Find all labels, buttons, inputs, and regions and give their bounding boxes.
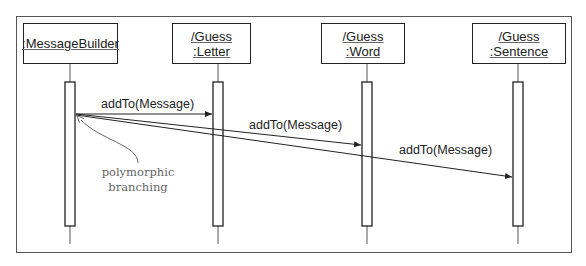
object-name-line2: :Letter	[193, 44, 230, 59]
annotation-line1: polymorphic	[98, 165, 178, 180]
activation-sentence	[513, 82, 523, 226]
annotation-line2: branching	[98, 180, 178, 195]
message-label-letter: addTo(Message)	[101, 97, 194, 111]
object-messagebuilder: :MessageBuilder	[23, 23, 118, 64]
message-label-sentence: addTo(Message)	[399, 143, 492, 157]
annotation-polymorphic-branching: polymorphic branching	[98, 165, 178, 195]
message-label-word: addTo(Message)	[249, 118, 342, 132]
object-name-line2: :Word	[346, 44, 380, 59]
activation-letter	[213, 82, 223, 226]
object-name-line1: /Guess	[342, 29, 383, 44]
object-name-line2: :Sentence	[490, 44, 549, 59]
object-name-line1: /Guess	[191, 29, 232, 44]
object-name-line1: /Guess	[498, 29, 539, 44]
object-guess-letter: /Guess :Letter	[172, 23, 251, 64]
annotation-pointer	[81, 120, 138, 163]
object-name: :MessageBuilder	[22, 36, 119, 51]
object-guess-sentence: /Guess :Sentence	[472, 23, 566, 64]
object-guess-word: /Guess :Word	[321, 23, 405, 64]
activation-messagebuilder	[65, 82, 75, 226]
activation-word	[362, 82, 372, 226]
